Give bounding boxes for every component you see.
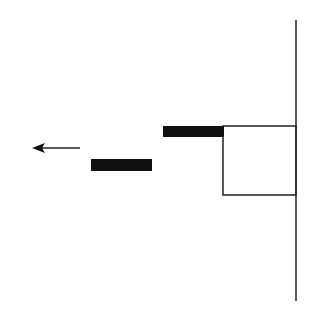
lower-bar xyxy=(91,159,152,171)
box-outline xyxy=(223,126,296,195)
diagram-canvas xyxy=(0,0,311,315)
upper-bar xyxy=(163,126,224,137)
